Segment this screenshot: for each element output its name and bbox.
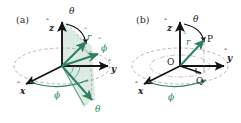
r-hat-label-text-a: r xyxy=(87,32,92,42)
theta-hat-label-text-a: θ xyxy=(95,104,101,114)
point-q-label-b: Q xyxy=(196,76,203,86)
figure-background xyxy=(0,0,241,123)
y-axis-label-text-a: y xyxy=(110,64,117,74)
x-axis-label-text-a: x xyxy=(19,86,26,96)
phi-angle-label-a: ϕ xyxy=(54,90,60,100)
z-axis-label-text-b: z xyxy=(166,23,173,33)
phi-angle-label-b: ϕ xyxy=(168,92,174,102)
r-vector-label-text-b: r xyxy=(186,37,191,47)
spherical-coordinates-figure: (a) ̂ z ̂ y ̂ x θ ϕ ̂ r ̂ ϕ ̂ xyxy=(0,0,241,123)
theta-angle-label-b: θ xyxy=(193,14,199,24)
origin-label-b: O xyxy=(167,57,174,67)
z-axis-label-text-a: z xyxy=(48,23,55,33)
theta-angle-label-a: θ xyxy=(69,6,75,16)
phi-hat-label-text-a: ϕ xyxy=(101,43,107,53)
figure-canvas: (a) ̂ z ̂ y ̂ x θ ϕ ̂ r ̂ ϕ ̂ xyxy=(0,0,241,123)
y-axis-label-text-b: y xyxy=(226,53,233,63)
x-axis-label-text-b: x xyxy=(137,86,144,96)
point-p-label-b: P xyxy=(207,34,213,44)
panel-b-label: (b) xyxy=(136,14,150,25)
panel-a-label: (a) xyxy=(16,14,29,25)
